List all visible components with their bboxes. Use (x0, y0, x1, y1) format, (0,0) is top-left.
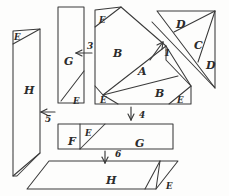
step-number-3: 3 (87, 42, 93, 51)
piece-label-e-bottom-left: E (100, 96, 106, 105)
piece-label-b-upper: B (113, 48, 122, 59)
arrow-1 (150, 42, 163, 60)
piece-label-h-left: H (24, 85, 34, 96)
piece-label-e-h-left: E (14, 33, 20, 42)
piece-label-d-right: D (206, 60, 216, 71)
piece-label-f-strip: F (68, 136, 76, 147)
piece-label-d-top: D (176, 19, 186, 30)
step-number-5: 5 (45, 115, 51, 124)
piece-label-h-strip: H (106, 175, 116, 186)
piece-label-e-h-strip: E (166, 182, 172, 191)
piece-label-c-top: C (194, 40, 203, 51)
piece-label-e-bottom-right: E (177, 96, 183, 105)
piece-label-e-strip: E (85, 129, 91, 138)
piece-label-g-strip: G (135, 138, 144, 149)
arrow-4 (128, 107, 134, 120)
piece-label-e-top-left: E (99, 16, 105, 25)
diagram-root: H E G E E B A B E E D C D F E G H E 1 3 … (0, 0, 229, 196)
shape-h-left-parallelogram (13, 29, 40, 176)
piece-label-a-mid: A (138, 66, 147, 77)
step-number-6: 6 (115, 150, 121, 159)
step-number-4: 4 (139, 111, 145, 120)
piece-label-b-lower: B (155, 88, 164, 99)
piece-label-g-vertical: G (64, 56, 73, 67)
diagram-canvas (0, 0, 229, 196)
piece-label-e-g-vertical: E (73, 97, 79, 106)
shape-h-bottom-parallelogram (27, 161, 178, 189)
step-number-1: 1 (164, 49, 170, 58)
